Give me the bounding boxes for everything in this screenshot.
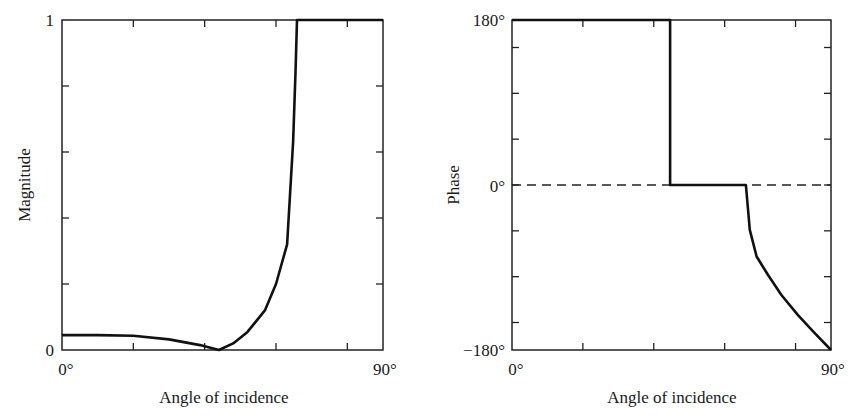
y-tick-label-180: 180° (473, 11, 505, 30)
y-tick-label-neg180: −180° (463, 341, 505, 360)
x-tick-label-0: 0° (508, 360, 523, 379)
phase-chart: 180° 0° −180° 0° 90° Angle of incidence … (444, 11, 845, 407)
x-axis-label: Angle of incidence (159, 388, 288, 407)
y-axis-label: Magnitude (15, 148, 34, 222)
x-tick-label-90: 90° (373, 360, 397, 379)
y-axis-label: Phase (444, 165, 463, 205)
magnitude-chart: 1 0 0° 90° Angle of incidence Magnitude (15, 11, 397, 407)
magnitude-plot-frame (62, 20, 383, 350)
y-tick-label-1: 1 (46, 11, 55, 30)
magnitude-ticks (62, 20, 383, 350)
x-tick-label-90: 90° (821, 360, 845, 379)
figure: 1 0 0° 90° Angle of incidence Magnitude … (0, 0, 860, 420)
magnitude-curve (62, 20, 383, 350)
x-axis-label: Angle of incidence (607, 388, 736, 407)
y-tick-label-0: 0° (490, 177, 505, 196)
y-tick-label-0: 0 (46, 341, 55, 360)
x-tick-label-0: 0° (58, 360, 73, 379)
